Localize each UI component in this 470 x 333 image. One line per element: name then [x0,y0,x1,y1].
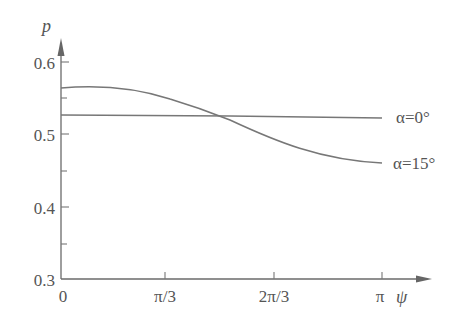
y-tick-label: 0.3 [34,271,55,290]
x-tick-label: 0 [59,287,68,306]
chart: 0.6 0.5 0.4 0.3 0 π/3 2π/3 π p ψ α=0° α=… [0,0,470,333]
x-tick-label: 2π/3 [259,287,289,306]
series-alpha-15-line [61,87,382,163]
series-label-alpha-15: α=15° [393,154,435,173]
x-axis-label: ψ [396,287,408,307]
x-tick-label: π [376,287,385,306]
y-axis-label: p [40,16,51,36]
y-axis-arrow-icon [58,38,65,56]
y-tick-label: 0.5 [34,126,55,145]
y-tick-label: 0.4 [34,199,56,218]
x-tick-label: π/3 [154,287,176,306]
series-label-alpha-0: α=0° [396,108,430,127]
y-tick-label: 0.6 [34,54,55,73]
x-axis-arrow-icon [416,276,432,283]
